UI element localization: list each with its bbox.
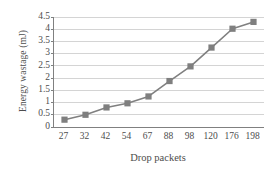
x-axis-tick-label: 198: [238, 131, 268, 142]
y-axis-tick-labels: 00.511.522.533.544.5: [26, 12, 50, 126]
data-point-marker: [250, 18, 256, 24]
y-axis-tick-label: 1: [26, 97, 50, 107]
y-axis-tick-label: 2: [26, 73, 50, 83]
y-axis-tick-mark: [51, 127, 54, 128]
y-axis-tick-label: 2.5: [26, 61, 50, 71]
y-axis-tick-label: 0.5: [26, 109, 50, 119]
series-line: [65, 21, 254, 119]
data-point-marker: [187, 63, 193, 69]
plot-area: [53, 17, 264, 128]
data-point-marker: [208, 44, 214, 50]
y-axis-tick-label: 4: [26, 24, 50, 34]
data-point-marker: [61, 116, 67, 122]
x-axis-tick-labels: 27324254678898120176198: [53, 131, 263, 145]
y-axis-tick-label: 1.5: [26, 85, 50, 95]
data-point-marker: [82, 111, 88, 117]
data-point-marker: [166, 77, 172, 83]
y-axis-tick-label: 3: [26, 48, 50, 58]
y-axis-tick-label: 4.5: [26, 12, 50, 22]
data-series-line: [54, 17, 264, 127]
data-point-marker: [124, 100, 130, 106]
y-axis-tick-label: 0: [26, 122, 50, 132]
energy-wastage-line-chart: Energy wastage (mJ) 00.511.522.533.544.5…: [0, 0, 274, 180]
x-axis-title: Drop packets: [53, 152, 263, 164]
data-point-marker: [229, 25, 235, 31]
y-axis-tick-label: 3.5: [26, 36, 50, 46]
data-point-marker: [103, 104, 109, 110]
data-point-marker: [145, 93, 151, 99]
